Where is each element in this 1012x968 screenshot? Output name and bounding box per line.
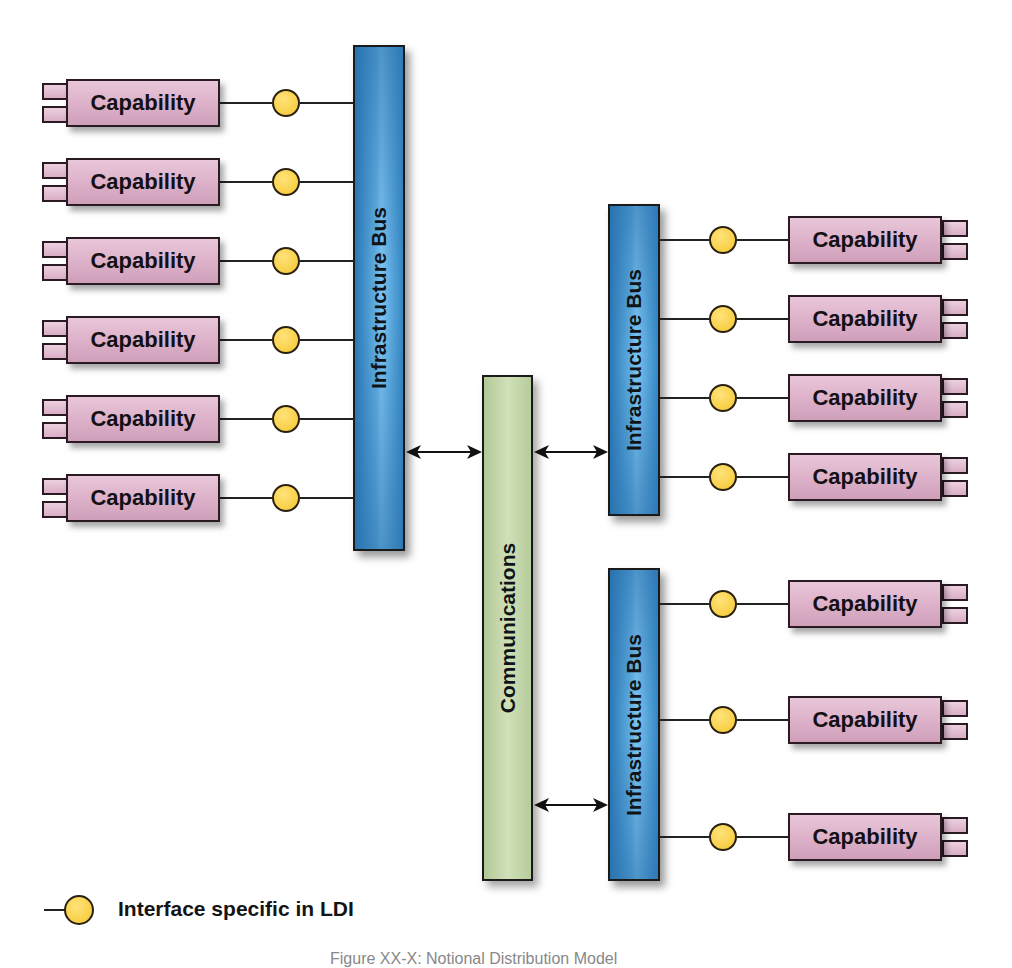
component-tab-icon — [42, 162, 68, 179]
left-infrastructure-bus: Infrastructure Bus — [353, 45, 405, 551]
capability-box: Capability — [788, 295, 942, 343]
interface-lollipop-icon — [709, 463, 737, 491]
connector-line — [300, 497, 353, 499]
legend-line — [44, 909, 66, 911]
connector-line — [660, 836, 709, 838]
connector-line — [660, 318, 709, 320]
component-tab-icon — [42, 501, 68, 518]
component-tab-icon — [942, 457, 968, 474]
capability-box: Capability — [788, 374, 942, 422]
capability-box: Capability — [788, 453, 942, 501]
capability-label: Capability — [812, 464, 917, 490]
bottom-right-bus-label: Infrastructure Bus — [622, 633, 646, 815]
connector-line — [737, 603, 789, 605]
capability-label: Capability — [812, 306, 917, 332]
component-tab-icon — [942, 584, 968, 601]
component-tab-icon — [942, 220, 968, 237]
capability-label: Capability — [90, 169, 195, 195]
interface-lollipop-icon — [272, 89, 300, 117]
interface-lollipop-icon — [709, 305, 737, 333]
capability-box: Capability — [66, 79, 220, 127]
component-tab-icon — [42, 399, 68, 416]
capability-label: Capability — [90, 406, 195, 432]
component-tab-icon — [942, 243, 968, 260]
bidirectional-arrow-icon — [533, 442, 609, 462]
capability-box: Capability — [66, 237, 220, 285]
component-tab-icon — [942, 378, 968, 395]
left-bus-label: Infrastructure Bus — [367, 207, 391, 389]
interface-lollipop-icon — [272, 247, 300, 275]
connector-line — [300, 102, 353, 104]
connector-line — [220, 339, 272, 341]
component-tab-icon — [42, 422, 68, 439]
component-tab-icon — [942, 607, 968, 624]
capability-label: Capability — [812, 385, 917, 411]
capability-box: Capability — [66, 395, 220, 443]
connector-line — [737, 476, 789, 478]
interface-lollipop-icon — [709, 226, 737, 254]
component-tab-icon — [42, 83, 68, 100]
component-tab-icon — [42, 185, 68, 202]
capability-box: Capability — [66, 158, 220, 206]
capability-label: Capability — [812, 824, 917, 850]
bidirectional-arrow-icon — [533, 795, 609, 815]
connector-line — [737, 836, 789, 838]
component-tab-icon — [42, 320, 68, 337]
connector-line — [660, 603, 709, 605]
capability-box: Capability — [66, 474, 220, 522]
communications-label: Communications — [496, 543, 520, 713]
connector-line — [220, 102, 272, 104]
interface-lollipop-icon — [272, 168, 300, 196]
capability-box: Capability — [788, 216, 942, 264]
capability-box: Capability — [788, 580, 942, 628]
capability-box: Capability — [788, 696, 942, 744]
connector-line — [300, 339, 353, 341]
connector-line — [660, 397, 709, 399]
capability-label: Capability — [90, 90, 195, 116]
connector-line — [220, 418, 272, 420]
component-tab-icon — [942, 480, 968, 497]
connector-line — [737, 719, 789, 721]
capability-box: Capability — [788, 813, 942, 861]
interface-lollipop-icon — [272, 484, 300, 512]
connector-line — [737, 397, 789, 399]
connector-line — [300, 260, 353, 262]
capability-label: Capability — [90, 327, 195, 353]
bidirectional-arrow-icon — [405, 442, 483, 462]
component-tab-icon — [42, 478, 68, 495]
component-tab-icon — [942, 700, 968, 717]
connector-line — [220, 181, 272, 183]
component-tab-icon — [942, 817, 968, 834]
communications-block: Communications — [482, 375, 533, 881]
interface-lollipop-icon — [64, 895, 94, 925]
connector-line — [300, 418, 353, 420]
connector-line — [220, 497, 272, 499]
component-tab-icon — [42, 264, 68, 281]
top-right-infrastructure-bus: Infrastructure Bus — [608, 204, 660, 516]
capability-label: Capability — [812, 227, 917, 253]
capability-label: Capability — [812, 707, 917, 733]
interface-lollipop-icon — [272, 326, 300, 354]
legend: Interface specific in LDI — [44, 893, 464, 927]
component-tab-icon — [942, 401, 968, 418]
interface-lollipop-icon — [709, 384, 737, 412]
component-tab-icon — [942, 840, 968, 857]
interface-lollipop-icon — [709, 590, 737, 618]
connector-line — [737, 239, 789, 241]
connector-line — [660, 476, 709, 478]
component-tab-icon — [42, 106, 68, 123]
interface-lollipop-icon — [709, 706, 737, 734]
connector-line — [660, 719, 709, 721]
capability-label: Capability — [90, 485, 195, 511]
capability-label: Capability — [90, 248, 195, 274]
component-tab-icon — [42, 241, 68, 258]
component-tab-icon — [42, 343, 68, 360]
connector-line — [660, 239, 709, 241]
component-tab-icon — [942, 322, 968, 339]
bottom-right-infrastructure-bus: Infrastructure Bus — [608, 568, 660, 881]
interface-lollipop-icon — [709, 823, 737, 851]
component-tab-icon — [942, 299, 968, 316]
figure-caption: Figure XX-X: Notional Distribution Model — [330, 950, 617, 968]
top-right-bus-label: Infrastructure Bus — [622, 269, 646, 451]
capability-box: Capability — [66, 316, 220, 364]
